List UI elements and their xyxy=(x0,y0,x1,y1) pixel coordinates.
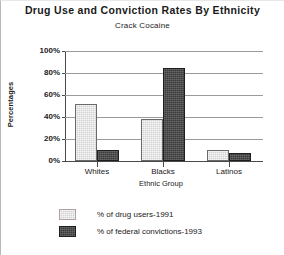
y-tick-label: 100% xyxy=(21,46,60,55)
chart-legend: % of drug users-1991 % of federal convic… xyxy=(59,206,259,240)
legend-item-convictions: % of federal convictions-1993 xyxy=(59,223,259,240)
y-tick-label: 60% xyxy=(21,90,60,99)
bar-blacks-drug-users xyxy=(141,119,163,161)
y-tick-label: 40% xyxy=(21,112,60,121)
x-category-label-whites: Whites xyxy=(62,167,132,176)
plot-area xyxy=(65,51,263,161)
legend-swatch-icon xyxy=(59,226,76,237)
gridline-100 xyxy=(65,51,263,52)
legend-label: % of federal convictions-1993 xyxy=(97,227,202,236)
y-tick-label: 20% xyxy=(21,134,60,143)
legend-swatch-icon xyxy=(59,209,76,220)
x-axis-title: Ethnic Group xyxy=(61,179,261,188)
bar-latinos-drug-users xyxy=(207,150,229,161)
bar-blacks-convictions xyxy=(163,68,185,162)
x-category-label-blacks: Blacks xyxy=(128,167,198,176)
bar-whites-convictions xyxy=(97,150,119,161)
y-tick-label: 80% xyxy=(21,68,60,77)
x-axis-baseline xyxy=(65,161,263,162)
chart-figure: Drug Use and Conviction Rates By Ethnici… xyxy=(0,0,284,255)
legend-label: % of drug users-1991 xyxy=(97,210,174,219)
bar-latinos-convictions xyxy=(229,153,251,161)
x-category-label-latinos: Latinos xyxy=(194,167,264,176)
bar-whites-drug-users xyxy=(75,104,97,161)
legend-item-drug-users: % of drug users-1991 xyxy=(59,206,259,223)
y-tick-label: 0% xyxy=(21,156,60,165)
